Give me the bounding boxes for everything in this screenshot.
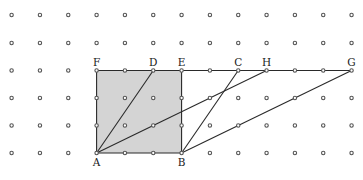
grid-dot: [293, 124, 296, 127]
grid-dot: [322, 124, 325, 127]
grid-dot: [208, 124, 211, 127]
grid-dot: [180, 96, 183, 99]
grid-dot: [180, 124, 183, 127]
grid-dot: [237, 41, 240, 44]
grid-dot: [123, 69, 126, 72]
grid-dot: [208, 96, 211, 99]
grid-dot: [265, 96, 268, 99]
grid-dot: [237, 13, 240, 16]
grid-dot: [237, 96, 240, 99]
grid-dot: [67, 41, 70, 44]
grid-dot: [67, 124, 70, 127]
grid-dot: [38, 96, 41, 99]
grid-dot: [180, 13, 183, 16]
grid-dot: [152, 124, 155, 127]
grid-dot: [123, 41, 126, 44]
grid-dot: [152, 13, 155, 16]
grid-dot: [10, 151, 13, 154]
segment-BG: [182, 71, 352, 154]
grid-dot: [180, 69, 183, 72]
segment-BC: [182, 71, 239, 154]
grid-dot: [10, 96, 13, 99]
grid-dot: [322, 13, 325, 16]
grid-dot: [123, 151, 126, 154]
point-label-D: D: [149, 56, 157, 68]
grid-dot: [38, 69, 41, 72]
point-label-G: G: [347, 56, 355, 68]
grid-dot: [123, 13, 126, 16]
point-label-B: B: [178, 156, 186, 168]
grid-dot: [152, 69, 155, 72]
grid-dot: [95, 13, 98, 16]
grid-dot: [265, 13, 268, 16]
shaded-square: [97, 71, 182, 154]
grid-dot: [95, 41, 98, 44]
grid-dot: [180, 151, 183, 154]
grid-dot: [208, 41, 211, 44]
point-label-A: A: [92, 156, 101, 168]
grid-dot: [350, 41, 353, 44]
geometry-diagram: ABFDECHG: [0, 0, 363, 180]
grid-dot: [293, 96, 296, 99]
square-FEBA: [97, 71, 182, 154]
grid-dot: [237, 151, 240, 154]
grid-dot: [293, 41, 296, 44]
grid-dot: [67, 69, 70, 72]
grid-dot: [208, 13, 211, 16]
grid-dot: [10, 13, 13, 16]
grid-dot: [322, 41, 325, 44]
grid-dot: [322, 96, 325, 99]
point-label-F: F: [93, 56, 100, 68]
grid-dot: [350, 96, 353, 99]
grid-dot: [67, 13, 70, 16]
grid-dot: [95, 69, 98, 72]
grid-dot: [152, 41, 155, 44]
grid-dot: [180, 41, 183, 44]
grid-dot: [208, 151, 211, 154]
grid-dot: [293, 13, 296, 16]
grid-dot: [123, 124, 126, 127]
grid-dot: [237, 124, 240, 127]
grid-dot: [265, 151, 268, 154]
point-label-E: E: [178, 56, 186, 68]
point-label-H: H: [262, 56, 271, 68]
grid-dot: [38, 151, 41, 154]
grid-dot: [265, 69, 268, 72]
grid-dot: [38, 13, 41, 16]
grid-dot: [152, 96, 155, 99]
grid-dot: [95, 151, 98, 154]
grid-dot: [10, 124, 13, 127]
grid-dot: [237, 69, 240, 72]
grid-dot: [38, 124, 41, 127]
grid-dot: [67, 151, 70, 154]
grid-dot: [67, 96, 70, 99]
grid-dot: [350, 151, 353, 154]
grid-dot: [293, 151, 296, 154]
grid-dot: [350, 69, 353, 72]
point-label-C: C: [234, 56, 242, 68]
grid-dot: [123, 96, 126, 99]
grid-dot: [265, 41, 268, 44]
grid-dot: [208, 69, 211, 72]
grid-dot: [95, 96, 98, 99]
grid-dot: [350, 13, 353, 16]
grid-dot: [350, 124, 353, 127]
grid-dot: [10, 69, 13, 72]
grid-dot: [95, 124, 98, 127]
grid-dot: [38, 41, 41, 44]
grid-dot: [293, 69, 296, 72]
grid-dot: [322, 69, 325, 72]
grid-dot: [10, 41, 13, 44]
grid-dot: [322, 151, 325, 154]
grid-dot: [152, 151, 155, 154]
grid-dot: [265, 124, 268, 127]
